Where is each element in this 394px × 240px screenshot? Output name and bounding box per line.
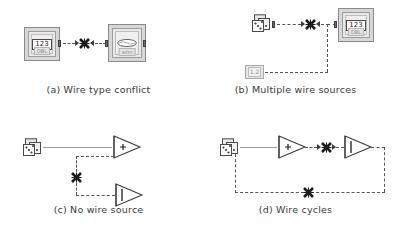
triangle-plus-icon — [275, 134, 309, 160]
wire-valid-to-adder[interactable] — [240, 147, 277, 148]
wire-segment-source[interactable] — [277, 24, 301, 25]
x-error-marker-icon — [305, 19, 316, 30]
wire-broken-to-unary[interactable] — [76, 195, 115, 196]
add-function-node[interactable] — [110, 134, 144, 160]
panel-b-canvas: 1.2 123 DBL — [197, 0, 394, 96]
panel-d-caption: (d) Wire cycles — [197, 204, 394, 215]
wire-loop-left-vertical[interactable] — [235, 154, 236, 193]
wire-arrow-left-icon — [316, 21, 320, 27]
dice-icon — [251, 14, 273, 34]
node-type-label: wfm — [119, 48, 136, 56]
triangle-bar-icon — [341, 134, 375, 160]
triangle-plus-icon — [110, 134, 144, 160]
wire-loop-out[interactable] — [371, 147, 385, 148]
dice-icon — [219, 138, 241, 158]
wire-branch-horizontal[interactable] — [265, 72, 328, 73]
x-error-marker-icon — [79, 38, 90, 49]
panel-a-canvas: 123 DBL — [0, 0, 197, 96]
random-number-node[interactable] — [22, 138, 44, 158]
panel-b-caption: (b) Multiple wire sources — [197, 84, 394, 95]
constant-node[interactable]: 1.2 — [245, 65, 264, 79]
wire-arrow-left-icon — [90, 40, 94, 46]
node-inner: 123 DBL — [28, 31, 56, 57]
node-type-label: DBL — [34, 47, 50, 55]
output-port[interactable] — [58, 40, 61, 47]
wire-loop-right-vertical[interactable] — [384, 147, 385, 192]
input-port[interactable] — [334, 21, 337, 28]
random-number-node[interactable] — [251, 14, 273, 34]
panel-a-caption: (a) Wire type conflict — [0, 84, 197, 95]
node-inner: wfm — [112, 28, 142, 58]
figure-wire-errors: 123 DBL — [0, 0, 394, 240]
x-error-marker-icon-loop — [303, 187, 314, 198]
dice-icon — [22, 138, 44, 158]
wire-valid-to-adder[interactable] — [43, 147, 112, 148]
wire-segment-mid-left[interactable] — [305, 147, 317, 148]
wire-broken-to-adder[interactable] — [76, 156, 114, 157]
panel-d-wire-cycles: (d) Wire cycles — [197, 120, 394, 240]
panel-a-wire-type-conflict: 123 DBL — [0, 0, 197, 120]
node-inner: 123 DBL — [342, 12, 370, 38]
numeric-indicator-node[interactable]: 123 DBL — [338, 8, 374, 42]
panel-d-canvas — [197, 120, 394, 216]
wire-broken-vertical-top[interactable] — [76, 156, 77, 172]
constant-value: 1.2 — [248, 67, 262, 76]
random-number-node[interactable] — [219, 138, 241, 158]
x-error-marker-icon — [71, 172, 82, 183]
output-port[interactable] — [143, 40, 146, 47]
node-type-label: DBL — [348, 28, 364, 36]
unary-function-node[interactable] — [341, 134, 375, 160]
panel-b-multiple-wire-sources: 1.2 123 DBL (b) Multiple wire sources — [197, 0, 394, 120]
waveform-node[interactable]: wfm — [108, 24, 146, 62]
wire-broken-vertical-bottom[interactable] — [76, 183, 77, 195]
numeric-control-node[interactable]: 123 DBL — [24, 27, 60, 61]
add-function-node[interactable] — [275, 134, 309, 160]
output-port[interactable] — [272, 21, 275, 28]
wire-branch-vertical[interactable] — [327, 24, 328, 72]
wire-segment-left[interactable] — [63, 43, 75, 44]
x-error-marker-icon — [321, 142, 332, 153]
panel-c-canvas — [0, 120, 197, 216]
panel-c-no-wire-source: (c) No wire source — [0, 120, 197, 240]
panel-c-caption: (c) No wire source — [0, 204, 197, 215]
